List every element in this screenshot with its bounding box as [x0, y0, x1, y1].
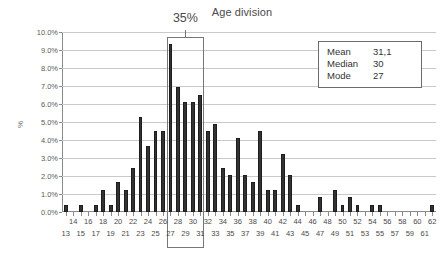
- x-tick-label: 58: [398, 217, 406, 226]
- bar: [139, 117, 143, 212]
- x-tick-label: 29: [181, 229, 189, 238]
- bar: [221, 168, 225, 212]
- x-tick-label: 59: [406, 229, 414, 238]
- bracket-label: 35%: [173, 11, 198, 25]
- x-tick-label: 44: [293, 217, 301, 226]
- stat-row-mode: Mode 27: [327, 70, 414, 82]
- bar: [154, 131, 158, 212]
- bar: [430, 205, 434, 212]
- bar: [116, 182, 120, 212]
- x-tick-label: 25: [151, 229, 159, 238]
- x-tick-label: 62: [428, 217, 436, 226]
- y-tick-label: 6.0%: [41, 100, 58, 109]
- bar: [79, 205, 83, 212]
- bar: [243, 175, 247, 212]
- y-tick-label: 5.0%: [41, 118, 58, 127]
- bar: [266, 190, 270, 213]
- x-tick-label: 14: [69, 217, 77, 226]
- bar: [281, 154, 285, 213]
- y-axis-label: %: [16, 121, 25, 128]
- bar: [273, 190, 277, 213]
- stat-value-mode: 27: [373, 70, 414, 82]
- bar: [341, 205, 345, 212]
- stats-box: Mean 31,1 Median 30 Mode 27: [318, 41, 422, 88]
- bar: [370, 205, 374, 212]
- x-tick-label: 32: [204, 217, 212, 226]
- x-tick-label: 53: [361, 229, 369, 238]
- bar: [161, 131, 165, 212]
- x-tick-label: 60: [413, 217, 421, 226]
- bar: [131, 168, 135, 212]
- x-tick-label: 56: [383, 217, 391, 226]
- x-tick-label: 26: [159, 217, 167, 226]
- chart-container: Age division % 0.0%1.0%2.0%3.0%4.0%5.0%6…: [0, 0, 444, 254]
- y-tick-label: 1.0%: [41, 190, 58, 199]
- bar: [318, 197, 322, 212]
- x-tick-label: 34: [219, 217, 227, 226]
- x-tick-label: 22: [129, 217, 137, 226]
- bar: [258, 131, 262, 212]
- bar: [333, 190, 337, 213]
- bar: [213, 124, 217, 212]
- x-tick-label: 36: [234, 217, 242, 226]
- y-tick-label: 9.0%: [41, 46, 58, 55]
- x-tick-label: 37: [241, 229, 249, 238]
- x-tick-label: 18: [99, 217, 107, 226]
- x-tick-label: 13: [62, 229, 70, 238]
- bar: [64, 205, 68, 212]
- y-tick-label: 8.0%: [41, 64, 58, 73]
- x-tick-label: 17: [91, 229, 99, 238]
- bar: [228, 175, 232, 212]
- bar: [288, 175, 292, 212]
- bar: [101, 190, 105, 212]
- x-tick-label: 33: [211, 229, 219, 238]
- bar: [378, 205, 382, 212]
- x-tick-label: 45: [301, 229, 309, 238]
- x-axis-labels: 1314151617181920212223242526272829303132…: [62, 216, 436, 248]
- x-tick-label: 39: [256, 229, 264, 238]
- chart-title: Age division: [0, 6, 444, 18]
- bracket-stem: [185, 30, 186, 37]
- x-tick-label: 40: [264, 217, 272, 226]
- y-tick-label: 10.0%: [37, 28, 58, 37]
- x-tick-label: 52: [353, 217, 361, 226]
- x-tick-label: 16: [84, 217, 92, 226]
- x-tick-label: 20: [114, 217, 122, 226]
- y-tick-label: 4.0%: [41, 136, 58, 145]
- x-tick-label: 48: [323, 217, 331, 226]
- y-tick-label: 0.0%: [41, 208, 58, 217]
- x-tick-label: 46: [308, 217, 316, 226]
- x-tick-label: 55: [376, 229, 384, 238]
- x-tick-label: 23: [136, 229, 144, 238]
- bar: [146, 146, 150, 212]
- x-tick-label: 38: [249, 217, 257, 226]
- x-tick-label: 51: [346, 229, 354, 238]
- x-tick-label: 61: [421, 229, 429, 238]
- bar: [296, 205, 300, 212]
- bar: [251, 182, 255, 212]
- x-tick-label: 54: [368, 217, 376, 226]
- x-tick-label: 27: [166, 229, 174, 238]
- x-tick-label: 43: [286, 229, 294, 238]
- y-tick-label: 3.0%: [41, 154, 58, 163]
- stat-label-mean: Mean: [327, 46, 373, 58]
- x-tick-label: 31: [196, 229, 204, 238]
- x-tick-label: 41: [271, 229, 279, 238]
- stat-label-median: Median: [327, 58, 373, 70]
- x-tick-label: 24: [144, 217, 152, 226]
- x-tick-label: 21: [121, 229, 129, 238]
- x-tick-label: 19: [106, 229, 114, 238]
- y-tick-label: 7.0%: [41, 82, 58, 91]
- bar: [109, 205, 113, 212]
- stat-label-mode: Mode: [327, 70, 373, 82]
- x-tick-label: 57: [391, 229, 399, 238]
- x-tick-label: 35: [226, 229, 234, 238]
- bar: [94, 205, 98, 212]
- bar: [356, 205, 360, 212]
- x-tick-label: 28: [174, 217, 182, 226]
- stat-row-median: Median 30: [327, 58, 414, 70]
- stat-value-mean: 31,1: [373, 46, 414, 58]
- x-tick-label: 47: [316, 229, 324, 238]
- bar: [124, 190, 128, 213]
- x-tick-label: 15: [77, 229, 85, 238]
